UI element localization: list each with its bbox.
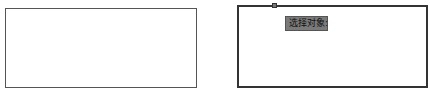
grip-handle-icon[interactable] [272, 3, 277, 8]
select-object-prompt: 选择对象: [285, 16, 328, 31]
rectangle-selected[interactable] [237, 5, 428, 88]
rectangle-unselected[interactable] [5, 8, 197, 88]
